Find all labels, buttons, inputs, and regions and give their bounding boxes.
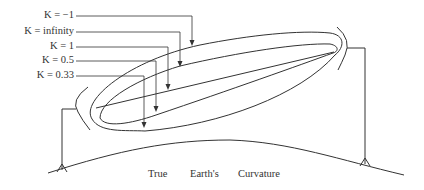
- label-k-minus-1: K = −1: [44, 9, 74, 20]
- caption-curvature: Curvature: [238, 168, 280, 179]
- caption-true: True: [148, 168, 167, 179]
- earth-curvature-line: [48, 140, 404, 175]
- leader-k-1: [76, 47, 168, 86]
- arrow-head-icon: [154, 106, 159, 112]
- label-k-infinity: K = infinity: [24, 25, 74, 36]
- leader-k-minus-1: [76, 16, 192, 42]
- label-k-0-5: K = 0.5: [42, 54, 74, 65]
- leader-k-infinity: [76, 32, 180, 63]
- ray-path-k-infinity-lower: [100, 53, 333, 124]
- arrow-head-icon: [142, 122, 147, 128]
- arrow-head-icon: [190, 40, 195, 46]
- label-k-1: K = 1: [50, 40, 74, 51]
- ray-path-k-minus-1-lower: [92, 55, 335, 131]
- ray-path-k-1: [96, 52, 334, 108]
- caption-earths: Earth's: [190, 168, 219, 179]
- right-antenna-mast: [347, 48, 365, 164]
- leader-k-0-33: [76, 76, 144, 124]
- ray-path-k-infinity: [100, 44, 337, 118]
- arrow-head-icon: [166, 84, 171, 90]
- left-antenna-dish: [76, 87, 90, 130]
- left-antenna-mast: [62, 109, 76, 170]
- right-antenna-dish: [337, 27, 347, 70]
- label-k-0-33: K = 0.33: [37, 69, 74, 80]
